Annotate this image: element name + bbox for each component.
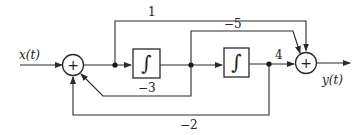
gain-label-1: 1 bbox=[148, 5, 156, 19]
integral-icon: ∫ bbox=[231, 50, 241, 74]
gain-label-minus2: −2 bbox=[180, 118, 198, 132]
summing-junction-1: + bbox=[63, 55, 84, 76]
input-label: x(t) bbox=[19, 48, 40, 62]
integrator-block-1: ∫ bbox=[133, 49, 160, 78]
plus-icon: + bbox=[67, 57, 79, 73]
summing-junction-2: + bbox=[296, 53, 317, 74]
integrator-block-2: ∫ bbox=[224, 48, 249, 77]
block-diagram: x(t) + ∫ ∫ 4 + y(t) 1 −5 −3 −2 bbox=[0, 0, 364, 135]
gain-label-minus3: −3 bbox=[138, 81, 156, 95]
integral-icon: ∫ bbox=[141, 51, 151, 75]
gain-label-minus5: −5 bbox=[224, 17, 242, 31]
output-label: y(t) bbox=[321, 73, 343, 87]
gain-label-4: 4 bbox=[275, 48, 283, 62]
plus-icon: + bbox=[300, 55, 312, 71]
